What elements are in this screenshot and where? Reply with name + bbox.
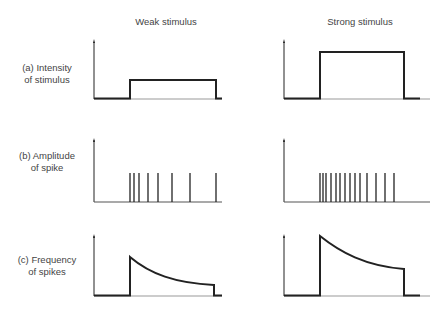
spike-graph-strong: [283, 138, 430, 202]
intensity-graph-strong: [283, 39, 430, 99]
intensity-trace: [284, 52, 420, 99]
frequency-graph-weak: [93, 234, 222, 296]
spike-train: [130, 173, 216, 202]
spike-train: [320, 173, 394, 202]
stimulus-response-diagram: [0, 0, 440, 310]
frequency-graph-strong: [283, 234, 430, 296]
spike-graph-weak: [93, 138, 222, 202]
frequency-trace: [94, 257, 222, 296]
intensity-graph-weak: [93, 39, 222, 99]
frequency-trace: [284, 236, 420, 296]
intensity-trace: [94, 80, 222, 99]
